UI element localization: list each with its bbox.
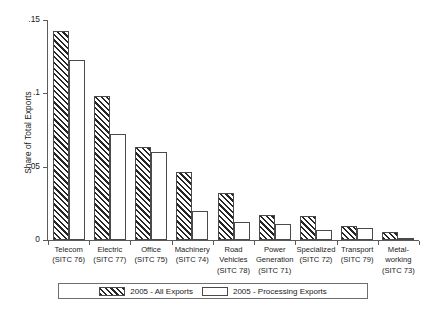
- y-axis-title: Share of Total Exports: [24, 43, 33, 223]
- x-category-label-line: (SITC 75): [127, 255, 174, 265]
- chart-legend: 2005 - All Exports2005 - Processing Expo…: [58, 283, 368, 299]
- bar-group: [176, 20, 208, 240]
- bar-group: [135, 20, 167, 240]
- bar-chart-figure: Share of Total Exports 0.05.1.15 Telecom…: [0, 0, 425, 309]
- bar-group: [341, 20, 373, 240]
- x-category-label-line: Generation: [251, 255, 298, 265]
- bar-group: [382, 20, 414, 240]
- bar-processing-exports: [151, 152, 167, 240]
- x-category-label-line: (SITC 79): [334, 255, 381, 265]
- x-category-label: Metal-working(SITC 73): [375, 245, 422, 276]
- bar-processing-exports: [69, 60, 85, 240]
- x-category-label-line: (SITC 72): [292, 255, 339, 265]
- x-axis-line: [47, 240, 419, 241]
- bar-all-exports: [300, 216, 316, 240]
- x-category-label-line: Machinery: [175, 245, 210, 254]
- legend-entry: 2005 - Processing Exports: [202, 287, 327, 296]
- x-category-label: PowerGeneration(SITC 71): [251, 245, 298, 276]
- bar-all-exports: [341, 226, 357, 240]
- x-category-label-line: Transport: [341, 245, 373, 254]
- y-tick-label: .1: [0, 88, 40, 96]
- bar-processing-exports: [234, 222, 250, 240]
- bar-all-exports: [53, 31, 69, 240]
- bar-all-exports: [218, 193, 234, 240]
- x-category-label-line: (SITC 78): [210, 266, 257, 276]
- y-tick-label: .15: [0, 15, 40, 23]
- legend-entry: 2005 - All Exports: [99, 287, 193, 296]
- x-category-label-line: Vehicles: [210, 255, 257, 265]
- bar-all-exports: [94, 96, 110, 240]
- y-tick-label: .05: [0, 162, 40, 170]
- x-category-label-line: (SITC 73): [375, 266, 422, 276]
- bar-group: [300, 20, 332, 240]
- x-category-label-line: Office: [141, 245, 161, 254]
- x-category-label-line: (SITC 76): [45, 255, 92, 265]
- x-category-label: Telecom(SITC 76): [45, 245, 92, 266]
- bar-all-exports: [135, 147, 151, 240]
- y-tick-label: 0: [0, 235, 40, 243]
- legend-label: 2005 - All Exports: [130, 287, 193, 296]
- bar-processing-exports: [275, 224, 291, 240]
- x-category-label-line: Road: [224, 245, 242, 254]
- x-category-label-line: (SITC 71): [251, 266, 298, 276]
- bar-group: [259, 20, 291, 240]
- x-category-label: RoadVehicles(SITC 78): [210, 245, 257, 276]
- x-category-label-line: (SITC 77): [86, 255, 133, 265]
- x-category-label: Machinery(SITC 74): [169, 245, 216, 266]
- bar-group: [53, 20, 85, 240]
- legend-label: 2005 - Processing Exports: [233, 287, 327, 296]
- legend-swatch-all-exports: [99, 287, 125, 296]
- legend-swatch-processing-exports: [202, 287, 228, 296]
- bar-processing-exports: [357, 228, 373, 240]
- x-category-label-line: Metal-: [388, 245, 409, 254]
- x-category-label: Office(SITC 75): [127, 245, 174, 266]
- x-category-label-line: Telecom: [54, 245, 82, 254]
- x-category-label-line: working: [375, 255, 422, 265]
- bar-all-exports: [259, 215, 275, 240]
- bar-group: [218, 20, 250, 240]
- plot-area: [48, 20, 419, 240]
- bar-processing-exports: [316, 230, 332, 240]
- bar-group: [94, 20, 126, 240]
- x-category-label-line: Specialized: [297, 245, 336, 254]
- x-category-label-line: Power: [264, 245, 286, 254]
- x-category-label: Electric(SITC 77): [86, 245, 133, 266]
- bar-all-exports: [382, 232, 398, 240]
- bar-processing-exports: [398, 238, 414, 240]
- x-category-label: Specialized(SITC 72): [292, 245, 339, 266]
- bar-all-exports: [176, 172, 192, 240]
- x-category-label: Transport(SITC 79): [334, 245, 381, 266]
- bar-processing-exports: [192, 211, 208, 240]
- x-category-label-line: Electric: [97, 245, 122, 254]
- x-category-label-line: (SITC 74): [169, 255, 216, 265]
- bar-processing-exports: [110, 134, 126, 240]
